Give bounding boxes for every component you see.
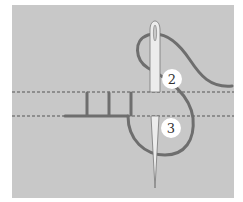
needle-eye <box>153 25 156 41</box>
step-label-3-text: 3 <box>167 121 175 136</box>
step-label-2: 2 <box>162 69 182 89</box>
fabric-background <box>12 5 234 198</box>
step-label-3: 3 <box>161 118 181 138</box>
blanket-stitch-diagram: 2 3 <box>0 0 243 202</box>
step-label-2-text: 2 <box>168 72 176 87</box>
